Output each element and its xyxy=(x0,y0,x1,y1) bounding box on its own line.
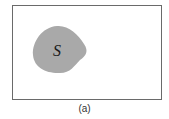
figure-caption: (a) xyxy=(0,103,169,114)
region-s-shape: S xyxy=(0,0,169,119)
diagram-figure: S (a) xyxy=(0,0,169,119)
region-label: S xyxy=(53,42,61,59)
